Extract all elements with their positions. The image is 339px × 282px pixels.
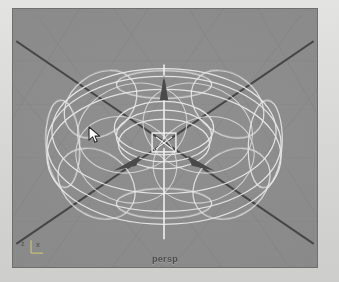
axis-label-z: z [21,240,25,247]
perspective-viewport[interactable]: persp [12,8,318,268]
viewport-name-label: persp [13,254,317,264]
screenshot-root: persp z x [0,0,339,282]
axis-label-x: x [36,241,40,248]
axis-orientation-gizmo [13,9,317,267]
